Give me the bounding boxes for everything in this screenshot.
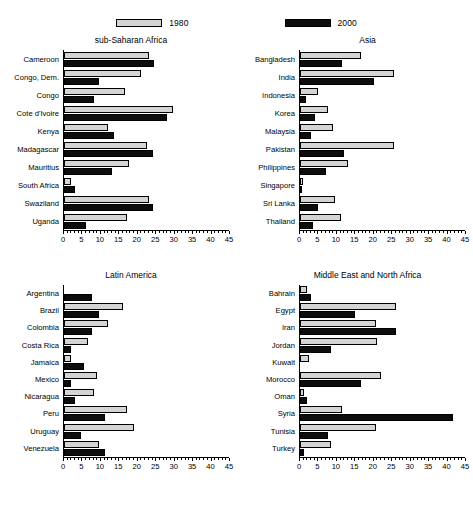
axis-tick-major xyxy=(155,458,156,461)
axis-tick-major xyxy=(137,458,138,461)
axis-tick-minor xyxy=(166,231,167,233)
axis-tick-minor xyxy=(181,458,182,460)
bar-group xyxy=(300,104,465,122)
axis-tick-major xyxy=(410,458,411,461)
axis-tick-label: 20 xyxy=(133,235,141,244)
axis-tick-minor xyxy=(107,458,108,460)
bar-1980 xyxy=(64,338,88,345)
axis-tick-minor xyxy=(67,231,68,233)
category-label: Bahrain xyxy=(236,285,299,302)
bar-2000 xyxy=(300,380,361,387)
axis-tick-minor xyxy=(188,231,189,233)
axis-tick-major xyxy=(428,458,429,461)
axis-tick-label: 5 xyxy=(79,462,83,471)
axis-tick-minor xyxy=(181,231,182,233)
axis-tick-minor xyxy=(402,458,403,460)
axis-tick-minor xyxy=(435,231,436,233)
axis-tick-minor xyxy=(343,231,344,233)
axis-tick-minor xyxy=(380,458,381,460)
axis-tick-minor xyxy=(314,458,315,460)
bar-1980 xyxy=(64,389,94,396)
bar-group xyxy=(300,68,465,86)
axis-tick-minor xyxy=(450,458,451,460)
bar-1980 xyxy=(64,441,99,448)
axis-tick-major xyxy=(174,231,175,234)
bar-group xyxy=(300,405,465,422)
axis-tick-minor xyxy=(458,458,459,460)
axis-tick-minor xyxy=(96,458,97,460)
axis-tick-major xyxy=(81,231,82,234)
axis-tick-major xyxy=(373,231,374,234)
axis-tick-minor xyxy=(365,231,366,233)
axis-tick-minor xyxy=(439,231,440,233)
axis-tick-minor xyxy=(388,231,389,233)
value-axis: 051015202530354045 xyxy=(299,230,465,231)
bar-1980 xyxy=(64,70,141,77)
axis-tick-minor xyxy=(222,458,223,460)
axis-tick-major xyxy=(211,231,212,234)
axis-tick-label: 15 xyxy=(114,462,122,471)
axis-tick-minor xyxy=(222,231,223,233)
axis-tick-minor xyxy=(163,231,164,233)
bars-area xyxy=(63,50,229,230)
axis-tick-minor xyxy=(74,458,75,460)
axis-tick-minor xyxy=(218,458,219,460)
bar-2000 xyxy=(64,168,112,175)
bar-group xyxy=(64,354,229,371)
axis-tick-minor xyxy=(214,458,215,460)
bar-1980 xyxy=(64,424,134,431)
axis-tick-minor xyxy=(454,458,455,460)
bar-2000 xyxy=(64,222,86,229)
bar-2000 xyxy=(300,397,307,404)
axis-tick-minor xyxy=(225,458,226,460)
axis-tick-minor xyxy=(347,458,348,460)
axis-tick-minor xyxy=(384,458,385,460)
bar-group xyxy=(300,86,465,104)
axis-tick-minor xyxy=(129,231,130,233)
axis-tick-label: 45 xyxy=(225,235,233,244)
axis-tick-minor xyxy=(399,231,400,233)
axis-tick-label: 35 xyxy=(424,235,432,244)
axis-tick-minor xyxy=(325,231,326,233)
panel-grid: sub-Saharan AfricaCameroonCongo, Dem.Con… xyxy=(0,34,473,494)
axis-tick-minor xyxy=(70,458,71,460)
axis-tick-minor xyxy=(78,231,79,233)
bar-2000 xyxy=(300,346,331,353)
category-label: India xyxy=(236,68,299,86)
bar-1980 xyxy=(300,52,361,59)
axis-tick-major xyxy=(317,458,318,461)
axis-tick-major xyxy=(100,231,101,234)
axis-tick-label: 10 xyxy=(332,235,340,244)
axis-tick-minor xyxy=(199,458,200,460)
bar-1980 xyxy=(300,106,328,113)
axis-tick-label: 10 xyxy=(96,462,104,471)
axis-tick-minor xyxy=(122,231,123,233)
axis-tick-minor xyxy=(185,231,186,233)
category-label: Uruguay xyxy=(0,423,63,440)
category-label: Kenya xyxy=(0,122,63,140)
axis-tick-major xyxy=(229,231,230,234)
axis-tick-minor xyxy=(351,231,352,233)
axis-tick-label: 20 xyxy=(133,462,141,471)
bar-group xyxy=(64,194,229,212)
bar-group xyxy=(300,388,465,405)
axis-tick-major xyxy=(354,458,355,461)
category-axis: BahrainEgyptIranJordanKuwaitMoroccoOmanS… xyxy=(236,285,299,457)
axis-tick-minor xyxy=(362,231,363,233)
axis-tick-major xyxy=(336,231,337,234)
bar-2000 xyxy=(300,132,311,139)
axis-tick-minor xyxy=(458,231,459,233)
axis-tick-minor xyxy=(140,458,141,460)
category-label: Venezuela xyxy=(0,440,63,457)
plot-area: ArgentinaBrazilColombiaCosta RicaJamaica… xyxy=(0,285,236,457)
axis-tick-label: 40 xyxy=(442,462,450,471)
axis-tick-major xyxy=(211,458,212,461)
axis-tick-major xyxy=(373,458,374,461)
axis-tick-minor xyxy=(218,231,219,233)
category-label: Pakistan xyxy=(236,140,299,158)
axis-tick-minor xyxy=(177,231,178,233)
bar-2000 xyxy=(64,114,167,121)
bar-1980 xyxy=(300,178,303,185)
bar-2000 xyxy=(300,204,318,211)
axis-tick-label: 25 xyxy=(387,235,395,244)
